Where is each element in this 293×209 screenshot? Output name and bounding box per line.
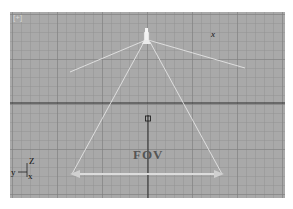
axis-x-label: x <box>28 172 33 181</box>
fov-label: FOV <box>133 148 163 161</box>
viewport-corner-label[interactable]: [+] <box>13 14 22 22</box>
axis-z-label: Z <box>29 157 35 166</box>
axis-y-label: y <box>11 168 16 177</box>
3d-viewport[interactable]: [+] x FOV Z y x <box>10 12 285 198</box>
camera-axis-label: x <box>211 30 215 39</box>
viewport-scene <box>10 12 285 198</box>
